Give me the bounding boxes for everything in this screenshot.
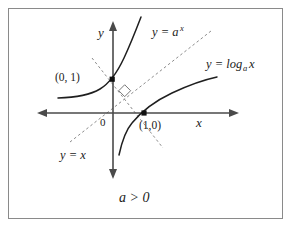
y-axis-arrow-up xyxy=(109,21,117,31)
logarithm-curve xyxy=(119,77,217,155)
point-label-x-intercept: (1,0) xyxy=(139,119,161,132)
x-axis-arrow-right xyxy=(229,109,239,117)
y-axis-label: y xyxy=(96,25,104,40)
point-label-y-intercept: (0, 1) xyxy=(55,71,80,84)
figure-page: y x 0 (0, 1) (1,0) y = a x y = log a x y… xyxy=(0,0,293,229)
exponential-label-exponent: x xyxy=(179,23,184,33)
y-axis-arrow-down xyxy=(109,169,117,179)
identity-line-label: y = x xyxy=(58,148,86,162)
exponential-label-base: y = a xyxy=(150,25,178,39)
logarithm-label-subscript: a xyxy=(243,63,247,73)
logarithm-label-suffix: x xyxy=(248,57,255,71)
figure-caption: a > 0 xyxy=(119,190,149,205)
point-marker-y-intercept xyxy=(110,77,115,82)
logarithm-label-prefix: y = log xyxy=(204,57,242,71)
origin-label: 0 xyxy=(100,116,106,128)
logarithm-curve-label: y = log a x xyxy=(204,57,255,73)
x-axis-label: x xyxy=(195,115,202,130)
exponential-curve-label: y = a x xyxy=(150,23,184,39)
x-axis-arrow-left xyxy=(37,109,47,117)
point-marker-x-intercept xyxy=(141,110,146,115)
right-angle-marker xyxy=(119,85,131,97)
reflection-perpendicular-dashed xyxy=(92,58,163,148)
exponential-log-diagram: y x 0 (0, 1) (1,0) y = a x y = log a x y… xyxy=(0,0,293,229)
